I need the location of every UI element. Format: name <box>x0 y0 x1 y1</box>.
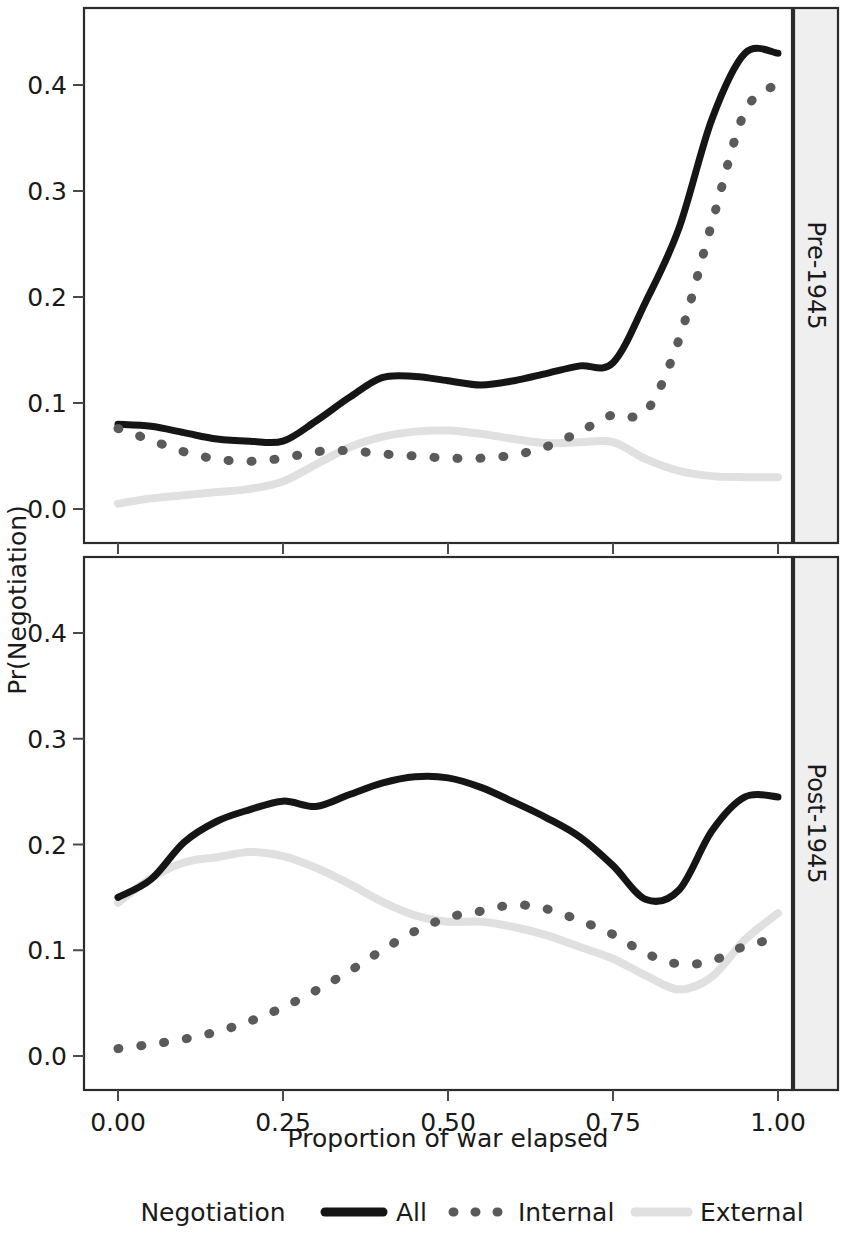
legend-label-internal: Internal <box>518 1198 614 1227</box>
x-axis-title: Proportion of war elapsed <box>288 1124 609 1153</box>
y-tick-label: 0.2 <box>27 283 67 312</box>
y-tick-label: 0.3 <box>27 177 67 206</box>
y-tick-label: 0.0 <box>27 1042 67 1071</box>
x-tick-label: 0.00 <box>90 1108 146 1137</box>
legend-label-all: All <box>396 1198 427 1227</box>
strip-label-post-1945: Post-1945 <box>802 764 830 884</box>
y-axis-title: Pr(Negotiation) <box>3 505 32 695</box>
legend-label-external: External <box>700 1198 804 1227</box>
y-axis-title-group: Pr(Negotiation) <box>3 505 32 695</box>
x-tick-label: 1.00 <box>750 1108 806 1137</box>
y-tick-label: 0.1 <box>27 389 67 418</box>
y-tick-label: 0.3 <box>27 725 67 754</box>
figure-container: 0.00.10.20.30.4Pre-19450.00.10.20.30.40.… <box>0 0 841 1247</box>
y-tick-label: 0.2 <box>27 831 67 860</box>
y-tick-label: 0.4 <box>27 619 67 648</box>
panel-pre-1945: 0.00.10.20.30.4Pre-1945 <box>27 8 838 554</box>
y-tick-label: 0.1 <box>27 936 67 965</box>
legend-title: Negotiation <box>140 1198 285 1227</box>
legend: NegotiationAllInternalExternal <box>140 1198 803 1227</box>
panel-frame <box>84 557 792 1090</box>
strip-label-pre-1945: Pre-1945 <box>802 222 830 330</box>
y-tick-label: 0.0 <box>27 495 67 524</box>
panel-frame <box>84 8 792 543</box>
panel-post-1945: 0.00.10.20.30.40.000.250.500.751.00Post-… <box>27 557 838 1137</box>
y-tick-label: 0.4 <box>27 71 67 100</box>
chart-svg: 0.00.10.20.30.4Pre-19450.00.10.20.30.40.… <box>0 0 841 1247</box>
